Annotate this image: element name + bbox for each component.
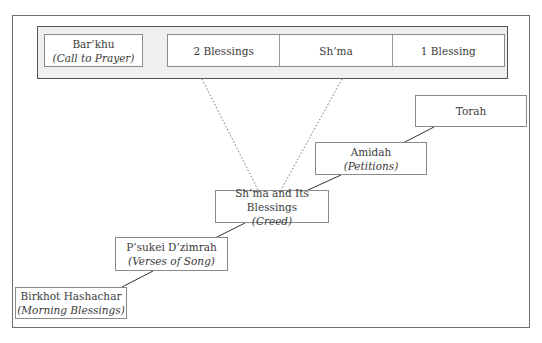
step-birkhot-hashachar: Birkhot Hashachar (Morning Blessings) bbox=[15, 287, 127, 319]
barkhu-subtitle: (Call to Prayer) bbox=[53, 51, 135, 65]
step-torah: Torah bbox=[415, 95, 527, 127]
step-psukei-dzimrah: P’sukei D’zimrah (Verses of Song) bbox=[115, 237, 228, 271]
cell-1-blessing: 1 Blessing bbox=[392, 35, 504, 66]
step-shma-title: Sh’ma and Its Blessings bbox=[216, 186, 328, 214]
step-birkhot-title: Birkhot Hashachar bbox=[21, 289, 122, 303]
step-amidah-title: Amidah bbox=[351, 145, 392, 159]
barkhu-box: Bar’khu (Call to Prayer) bbox=[44, 34, 143, 67]
step-psukei-subtitle: (Verses of Song) bbox=[128, 254, 215, 268]
step-psukei-title: P’sukei D’zimrah bbox=[126, 240, 216, 254]
step-amidah: Amidah (Petitions) bbox=[315, 142, 427, 175]
step-shma-subtitle: (Creed) bbox=[252, 214, 292, 228]
shma-parts-row: 2 Blessings Sh’ma 1 Blessing bbox=[167, 34, 505, 67]
cell-2-blessings: 2 Blessings bbox=[168, 35, 279, 66]
barkhu-title: Bar’khu bbox=[72, 37, 114, 51]
step-shma-blessings: Sh’ma and Its Blessings (Creed) bbox=[215, 190, 329, 223]
step-amidah-subtitle: (Petitions) bbox=[344, 159, 399, 173]
step-torah-title: Torah bbox=[456, 104, 487, 118]
cell-shma: Sh’ma bbox=[279, 35, 391, 66]
step-birkhot-subtitle: (Morning Blessings) bbox=[17, 303, 125, 317]
